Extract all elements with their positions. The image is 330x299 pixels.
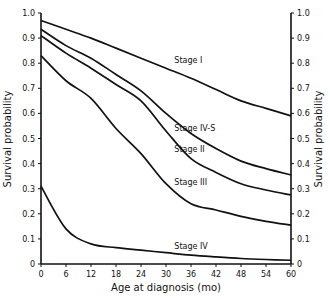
series-line-stage-iv-s (41, 29, 291, 175)
y-tick-label-right: 0.4 (297, 160, 310, 169)
series-line-stage-iii (41, 56, 291, 225)
series-label-stage-iii: Stage III (174, 178, 207, 187)
y-tick-label-right: 0.2 (297, 210, 310, 219)
x-tick-label: 0 (38, 270, 43, 279)
y-tick-label-left: 0.1 (22, 235, 35, 244)
y-tick-label-left: 0.3 (22, 185, 35, 194)
y-tick-label-left: 1.0 (22, 9, 35, 18)
series-label-stage-ii: Stage II (174, 145, 204, 154)
x-tick-label: 42 (211, 270, 221, 279)
y-tick-label-right: 0.6 (297, 109, 310, 118)
y-tick-label-left: 0.7 (22, 84, 35, 93)
y-axis-label-left: Survival probability (2, 90, 13, 187)
x-tick-label: 6 (63, 270, 68, 279)
x-axis-label: Age at diagnosis (mo) (111, 282, 221, 293)
y-tick-label-right: 0.3 (297, 185, 310, 194)
series-line-stage-ii (41, 36, 291, 195)
series-label-stage-iv-s: Stage IV-S (174, 124, 215, 133)
x-tick-label: 30 (161, 270, 171, 279)
y-tick-label-right: 0.9 (297, 34, 310, 43)
series-label-stage-i: Stage I (174, 56, 202, 65)
y-tick-label-left: 0.6 (22, 109, 35, 118)
x-tick-label: 54 (261, 270, 271, 279)
x-tick-label: 36 (186, 270, 196, 279)
x-tick-label: 12 (86, 270, 96, 279)
y-tick-label-right: 0.5 (297, 135, 310, 144)
series-line-stage-iv (41, 186, 291, 260)
chart-canvas: 000.10.10.20.20.30.30.40.40.50.50.60.60.… (0, 0, 330, 299)
x-tick-label: 60 (286, 270, 296, 279)
series-lines (41, 21, 291, 261)
y-tick-label-right: 0.1 (297, 235, 310, 244)
y-tick-label-left: 0.8 (22, 59, 35, 68)
x-tick-label: 24 (136, 270, 146, 279)
series-label-stage-iv: Stage IV (174, 242, 208, 251)
y-tick-label-left: 0.9 (22, 34, 35, 43)
x-tick-label: 18 (111, 270, 121, 279)
y-tick-label-left: 0.5 (22, 135, 35, 144)
y-tick-label-right: 0 (297, 260, 302, 269)
series-labels: Stage IStage IV-SStage IIStage IIIStage … (174, 56, 215, 251)
y-tick-label-right: 1.0 (297, 9, 310, 18)
y-tick-label-left: 0.2 (22, 210, 35, 219)
x-tick-label: 48 (236, 270, 246, 279)
y-tick-label-left: 0 (30, 260, 35, 269)
y-axis-label-right: Survival probability (313, 90, 324, 187)
series-line-stage-i (41, 21, 291, 116)
axes: 000.10.10.20.20.30.30.40.40.50.50.60.60.… (22, 9, 309, 279)
y-tick-label-left: 0.4 (22, 160, 35, 169)
y-tick-label-right: 0.8 (297, 59, 310, 68)
y-tick-label-right: 0.7 (297, 84, 310, 93)
survival-chart: 000.10.10.20.20.30.30.40.40.50.50.60.60.… (0, 0, 330, 299)
